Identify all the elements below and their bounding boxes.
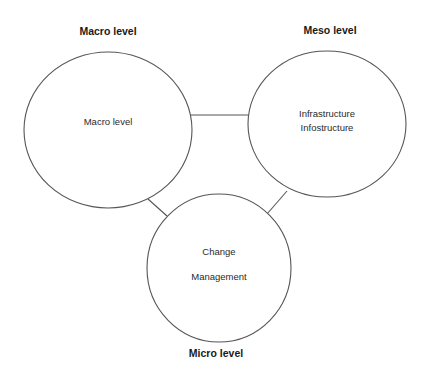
meso-node-label-line1: Infrastructure [299,108,355,119]
macro-node-label: Macro level [84,116,133,127]
node-macro: Macro level [24,52,192,208]
macro-ellipse [24,52,192,208]
diagram-canvas: Macro level Infrastructure Infostructure… [0,0,426,375]
meso-node-label-line2: Infostructure [301,122,354,133]
edge-meso-micro [267,191,287,214]
macro-level-title: Macro level [79,25,136,37]
micro-node-label-line1: Change [202,246,235,257]
node-micro: Change Management [147,194,291,342]
micro-ellipse [147,194,291,342]
micro-level-title: Micro level [189,347,243,359]
node-meso: Infrastructure Infostructure [248,51,406,197]
meso-level-title: Meso level [303,24,356,36]
micro-node-label-line2: Management [191,271,247,282]
edge-macro-micro [148,199,167,216]
